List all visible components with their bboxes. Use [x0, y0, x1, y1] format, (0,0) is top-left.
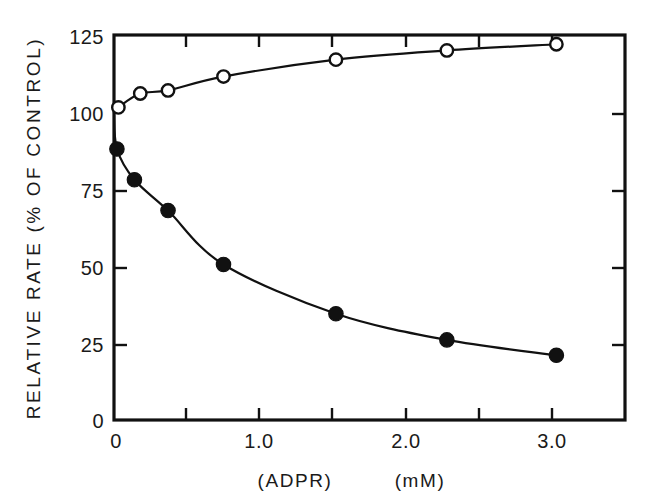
x-tick-label-1: 1.0: [244, 430, 273, 452]
x-axis-ticks-bottom: [186, 408, 552, 420]
y-axis-ticks-right: [612, 114, 625, 345]
data-point-filled: [329, 307, 343, 321]
chart-plot: 125 100 75 50 25 0 0 1.0 2.0 3.0 RELATIV…: [0, 0, 657, 502]
data-point-filled: [549, 348, 563, 362]
x-axis-title-units: (mM): [395, 470, 446, 491]
y-tick-label-50: 50: [81, 257, 104, 279]
x-tick-label-3: 3.0: [537, 430, 566, 452]
figure-container: 125 100 75 50 25 0 0 1.0 2.0 3.0 RELATIV…: [0, 0, 657, 502]
series-markers-filled-circles: [110, 142, 564, 363]
y-axis-title: RELATIVE RATE (% OF CONTROL): [23, 37, 44, 419]
y-axis-ticks-left: [114, 191, 127, 345]
data-point-open: [134, 87, 146, 99]
y-tick-label-100: 100: [69, 103, 104, 125]
x-axis-title-analyte: (ADPR): [257, 470, 332, 491]
x-tick-label-0: 0: [110, 430, 122, 452]
series-markers-open-circles: [112, 38, 562, 114]
data-point-open: [330, 53, 342, 65]
x-axis-ticks-top: [186, 35, 552, 47]
data-point-filled: [110, 142, 124, 156]
data-point-open: [162, 84, 174, 96]
data-point-filled: [161, 203, 175, 217]
data-point-filled: [127, 173, 141, 187]
data-point-open: [550, 38, 562, 50]
data-point-open: [112, 101, 124, 113]
data-point-filled: [440, 333, 454, 347]
y-tick-label-75: 75: [81, 180, 104, 202]
data-point-open: [441, 44, 453, 56]
plot-frame: [114, 35, 625, 420]
x-tick-label-2: 2.0: [391, 430, 420, 452]
y-tick-label-125: 125: [69, 26, 104, 48]
y-tick-label-25: 25: [81, 334, 104, 356]
data-point-open: [217, 70, 229, 82]
y-tick-label-0: 0: [92, 410, 104, 432]
data-point-filled: [216, 257, 230, 271]
